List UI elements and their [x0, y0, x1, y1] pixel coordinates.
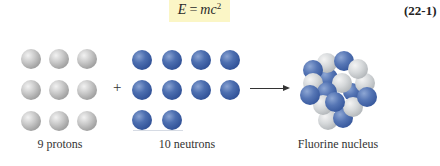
nucleus-neutron — [325, 92, 345, 112]
nucleus-neutron — [300, 85, 320, 105]
nucleus-label: Fluorine nucleus — [293, 137, 383, 152]
nucleus-neutron — [357, 87, 377, 107]
nucleus-proton — [348, 59, 368, 79]
